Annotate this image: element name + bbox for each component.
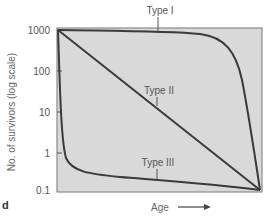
survivorship-chart: 1000 100 10 1 0.1 No. of survivors (log … xyxy=(0,0,270,220)
label-type-1: Type I xyxy=(146,5,173,31)
y-axis-title: No. of survivors (log scale) xyxy=(6,53,17,171)
arrow-right-icon xyxy=(178,204,211,210)
svg-text:Type I: Type I xyxy=(146,5,173,16)
panel-letter: d xyxy=(2,199,9,211)
svg-text:Type III: Type III xyxy=(142,157,175,168)
x-axis-title: Age xyxy=(151,202,169,213)
svg-text:Type II: Type II xyxy=(144,85,174,96)
y-tick-100: 100 xyxy=(33,66,50,77)
y-tick-1: 1 xyxy=(44,148,50,159)
y-tick-10: 10 xyxy=(39,107,51,118)
y-tick-1000: 1000 xyxy=(28,25,51,36)
y-tick-0-1: 0.1 xyxy=(36,185,50,196)
